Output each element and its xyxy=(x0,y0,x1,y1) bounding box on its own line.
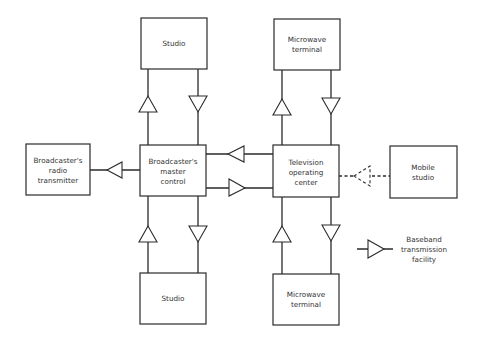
node-studio-top: Studio xyxy=(141,18,207,69)
svg-text:radio: radio xyxy=(49,166,67,175)
svg-text:control: control xyxy=(161,177,186,186)
node-mobile-studio: Mobile studio xyxy=(390,146,457,198)
svg-text:transmission: transmission xyxy=(401,245,447,254)
legend: Baseband transmission facility xyxy=(357,235,447,264)
svg-text:Studio: Studio xyxy=(163,39,186,48)
amplifier-down-icon xyxy=(189,96,207,112)
node-microwave-terminal-bottom: Microwave terminal xyxy=(273,274,339,325)
svg-text:Broadcaster's: Broadcaster's xyxy=(33,156,82,165)
svg-text:Microwave: Microwave xyxy=(288,35,327,44)
svg-text:operating: operating xyxy=(289,168,324,177)
amplifier-left-dashed-icon xyxy=(354,166,370,186)
amplifier-down-icon xyxy=(322,98,340,114)
node-microwave-terminal-top: Microwave terminal xyxy=(274,19,340,70)
svg-text:terminal: terminal xyxy=(291,300,321,309)
svg-text:transmitter: transmitter xyxy=(38,176,79,185)
broadcast-block-diagram: Studio Microwave terminal Broadcaster's … xyxy=(0,0,481,341)
svg-text:terminal: terminal xyxy=(292,45,322,54)
amplifier-down-icon xyxy=(322,225,340,241)
svg-text:studio: studio xyxy=(412,173,434,182)
amplifier-up-icon xyxy=(139,226,157,242)
node-master-control: Broadcaster's master control xyxy=(140,145,206,196)
amplifier-up-icon xyxy=(273,99,291,115)
svg-text:Microwave: Microwave xyxy=(287,290,326,299)
amplifier-up-icon xyxy=(139,96,157,112)
svg-text:master: master xyxy=(160,167,185,176)
node-studio-bottom: Studio xyxy=(140,273,206,324)
svg-text:Mobile: Mobile xyxy=(411,163,435,172)
svg-text:facility: facility xyxy=(412,255,437,264)
amplifier-left-icon xyxy=(228,146,244,162)
amplifier-right-icon xyxy=(229,179,245,196)
amplifier-left-icon xyxy=(107,162,122,178)
amplifier-up-icon xyxy=(273,226,291,242)
amplifier-down-icon xyxy=(189,226,207,242)
svg-text:Television: Television xyxy=(288,158,324,167)
svg-text:Broadcaster's: Broadcaster's xyxy=(148,157,197,166)
node-radio-transmitter: Broadcaster's radio transmitter xyxy=(26,144,90,195)
svg-text:Baseband: Baseband xyxy=(406,235,442,244)
node-television-operating-center: Television operating center xyxy=(273,145,339,197)
svg-text:center: center xyxy=(294,178,317,187)
legend-amplifier-icon xyxy=(368,240,384,258)
svg-text:Studio: Studio xyxy=(162,294,185,303)
